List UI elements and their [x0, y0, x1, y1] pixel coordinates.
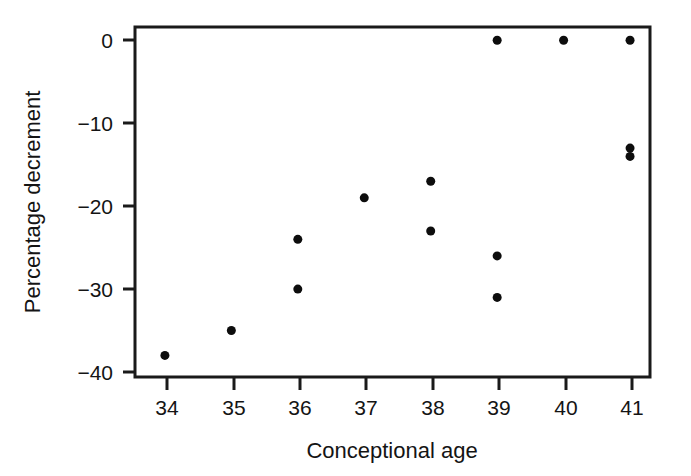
- x-tick-label-36: 36: [288, 396, 311, 419]
- data-point: [293, 285, 302, 294]
- plot-box-outline: [135, 27, 650, 377]
- x-tick-label-37: 37: [354, 396, 377, 419]
- x-tick-label-35: 35: [222, 396, 245, 419]
- data-point: [426, 227, 435, 236]
- data-point: [493, 36, 502, 45]
- data-point: [626, 152, 635, 161]
- y-tick-label-m20: −20: [77, 195, 113, 218]
- x-axis-title: Conceptional age: [306, 438, 477, 463]
- data-point: [626, 144, 635, 153]
- y-axis-ticks: [123, 40, 135, 372]
- plot-frame: [135, 27, 650, 377]
- y-tick-label-m10: −10: [77, 112, 113, 135]
- data-point: [360, 193, 369, 202]
- data-point: [493, 293, 502, 302]
- data-point: [426, 177, 435, 186]
- y-tick-label-0: 0: [101, 29, 113, 52]
- x-tick-label-41: 41: [620, 396, 643, 419]
- plot-canvas: 0 −10 −20 −30 −40 34 35 36 37 38 39 40 4: [0, 0, 691, 476]
- x-axis-ticks: [167, 377, 632, 390]
- data-point: [559, 36, 568, 45]
- data-points-layer: [160, 36, 634, 360]
- y-tick-label-m30: −30: [77, 278, 113, 301]
- x-tick-label-38: 38: [421, 396, 444, 419]
- scatter-plot-figure: 0 −10 −20 −30 −40 34 35 36 37 38 39 40 4: [0, 0, 691, 476]
- x-tick-label-39: 39: [487, 396, 510, 419]
- data-point: [160, 351, 169, 360]
- y-axis-tick-labels: 0 −10 −20 −30 −40: [77, 29, 113, 384]
- x-axis-tick-labels: 34 35 36 37 38 39 40 41: [155, 396, 643, 419]
- x-tick-label-40: 40: [554, 396, 577, 419]
- data-point: [626, 36, 635, 45]
- y-axis-title: Percentage decrement: [20, 91, 45, 314]
- x-tick-label-34: 34: [155, 396, 179, 419]
- data-point: [493, 251, 502, 260]
- data-point: [293, 235, 302, 244]
- data-point: [227, 326, 236, 335]
- y-tick-label-m40: −40: [77, 361, 113, 384]
